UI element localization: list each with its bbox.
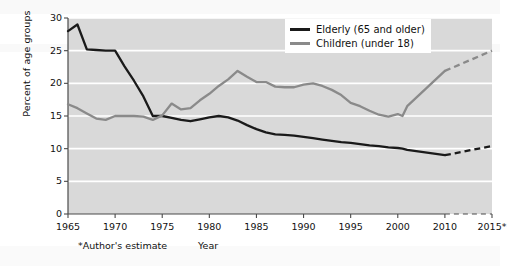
legend-label-children: Children (under 18) [316, 38, 414, 49]
y-axis-title: Percent of age groups [21, 0, 32, 144]
legend-line-swatch-elderly [290, 28, 310, 31]
x-tick-label: 1975 [137, 221, 187, 232]
x-tick-label: 1995 [326, 221, 376, 232]
x-axis-title: Year [198, 240, 218, 251]
x-tick-label: 2000 [373, 221, 423, 232]
x-tick-label: 1980 [184, 221, 234, 232]
x-tick-label: 2010 [420, 221, 470, 232]
x-tick-label: 1985 [231, 221, 281, 232]
x-tick-label: 1965 [43, 221, 93, 232]
legend-item-elderly: Elderly (65 and older) [290, 22, 425, 36]
x-tick-label: 1970 [90, 221, 140, 232]
chart-legend: Elderly (65 and older) Children (under 1… [285, 19, 431, 53]
legend-label-elderly: Elderly (65 and older) [316, 24, 425, 35]
y-tick-label: 0 [22, 208, 62, 219]
legend-line-swatch-children [290, 42, 310, 45]
x-tick-label: 2015* [467, 221, 511, 232]
y-tick-label: 10 [22, 143, 62, 154]
chart-footnote: *Author's estimate [78, 240, 167, 251]
y-tick-label: 5 [22, 175, 62, 186]
x-tick-label: 1990 [279, 221, 329, 232]
legend-item-children: Children (under 18) [290, 36, 425, 50]
